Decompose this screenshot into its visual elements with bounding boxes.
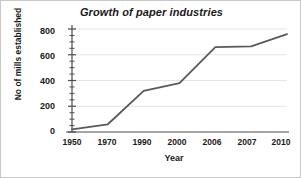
plot-area [1, 1, 301, 178]
chart-figure: Growth of paper industries No of mills e… [0, 0, 301, 178]
y-axis [68, 25, 76, 132]
data-line [72, 34, 287, 129]
data-series-group [72, 34, 287, 129]
gridlines-group [72, 29, 287, 106]
